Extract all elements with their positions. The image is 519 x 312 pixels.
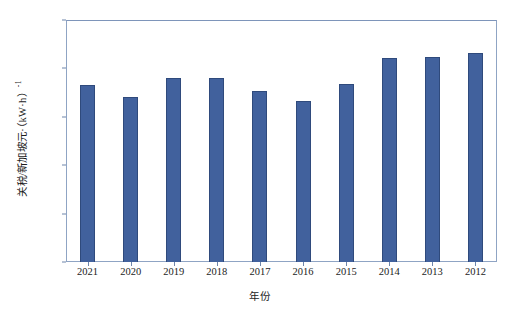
y-axis-tick-mark [62, 20, 66, 21]
bar [166, 78, 181, 262]
x-axis-title: 年份 [0, 288, 519, 303]
y-axis-tick-mark [62, 262, 66, 263]
x-axis-tick-label: 2012 [445, 266, 505, 277]
y-axis-title-text: 关税/新加坡元·（kW·h） [17, 87, 28, 197]
y-axis-title-superscript: -1 [14, 80, 23, 87]
bar [382, 58, 397, 262]
y-axis-title: 关税/新加坡元·（kW·h）-1 [14, 14, 29, 264]
bar [80, 85, 95, 262]
bar [425, 57, 440, 262]
bar-chart-figure: 关税/新加坡元·（kW·h）-1 0510152025 202120202019… [0, 0, 519, 312]
bar [209, 78, 224, 262]
bar [123, 97, 138, 262]
bar [468, 53, 483, 262]
bar [296, 101, 311, 262]
y-axis-tick-mark [62, 68, 66, 69]
y-axis-tick-mark [62, 116, 66, 117]
bar [339, 84, 354, 262]
y-axis-tick-mark [62, 213, 66, 214]
bar [252, 91, 267, 262]
y-axis-tick-mark [62, 165, 66, 166]
